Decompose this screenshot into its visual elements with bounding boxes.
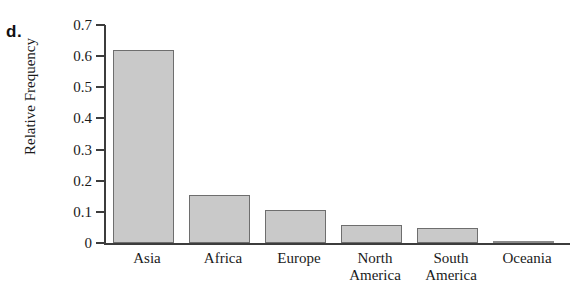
x-axis-label-line: Africa xyxy=(204,250,242,266)
y-axis-tick xyxy=(96,117,105,119)
bar-asia xyxy=(113,50,174,243)
y-axis-tick-label: 0.7 xyxy=(48,18,92,33)
bar-chart-plot: 00.10.20.30.40.50.60.7 AsiaAfricaEuropeN… xyxy=(0,0,583,291)
x-axis-label-line: Asia xyxy=(133,250,161,266)
y-axis-tick-label: 0.4 xyxy=(48,111,92,126)
y-axis-tick-label-wrap: 0 xyxy=(44,236,92,252)
bar-oceania xyxy=(493,241,554,243)
y-axis-tick-label-wrap: 0.4 xyxy=(44,111,92,127)
y-axis-tick-label-wrap: 0.3 xyxy=(44,143,92,159)
bar-south-america xyxy=(417,228,478,243)
x-axis-label-line: South xyxy=(433,250,468,266)
x-axis-label-south-america: SouthAmerica xyxy=(407,250,495,285)
y-axis-tick-label-wrap: 0.1 xyxy=(44,205,92,221)
y-axis-tick-label: 0.3 xyxy=(48,143,92,158)
bar-north-america xyxy=(341,225,402,243)
x-axis-line xyxy=(104,243,570,245)
x-axis-label-asia: Asia xyxy=(103,250,191,267)
y-axis-tick-label: 0.2 xyxy=(48,174,92,189)
y-axis-tick-label: 0.6 xyxy=(48,49,92,64)
y-axis-tick xyxy=(96,86,105,88)
bar-africa xyxy=(189,195,250,243)
x-axis-label-line: North xyxy=(358,250,393,266)
y-axis-tick-label-wrap: 0.6 xyxy=(44,49,92,65)
y-axis-tick-label: 0 xyxy=(48,236,92,251)
y-axis-tick xyxy=(96,24,105,26)
x-axis-label-africa: Africa xyxy=(179,250,267,267)
x-axis-label-line: America xyxy=(331,267,419,284)
y-axis-tick xyxy=(96,211,105,213)
x-axis-label-europe: Europe xyxy=(255,250,343,267)
x-axis-label-oceania: Oceania xyxy=(483,250,571,267)
x-axis-label-north-america: NorthAmerica xyxy=(331,250,419,285)
x-axis-label-line: America xyxy=(407,267,495,284)
y-axis-tick-label-wrap: 0.5 xyxy=(44,80,92,96)
y-axis-tick xyxy=(96,55,105,57)
x-axis-label-line: Oceania xyxy=(502,250,551,266)
y-axis-tick xyxy=(96,180,105,182)
y-axis-tick xyxy=(96,242,105,244)
y-axis-tick-label-wrap: 0.7 xyxy=(44,18,92,34)
bar-europe xyxy=(265,210,326,243)
y-axis-tick-label-wrap: 0.2 xyxy=(44,174,92,190)
y-axis-tick-label: 0.5 xyxy=(48,80,92,95)
x-axis-label-line: Europe xyxy=(277,250,320,266)
y-axis-tick xyxy=(96,149,105,151)
y-axis-tick-label: 0.1 xyxy=(48,205,92,220)
